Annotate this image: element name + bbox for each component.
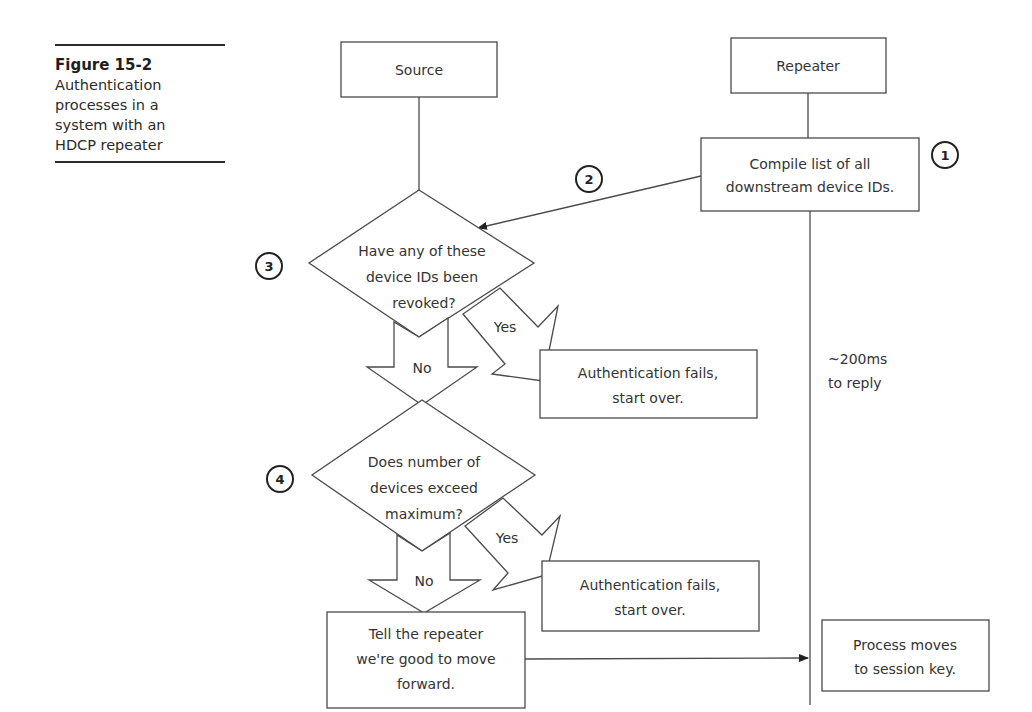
revoked-line-3: revoked? (392, 295, 455, 311)
session-key-box: Process moves to session key. (822, 620, 989, 691)
revoked-fail-line-1: Authentication fails, (578, 365, 718, 381)
proceed-arrow (525, 658, 808, 659)
tell-repeater-box: Tell the repeater we're good to move for… (327, 612, 525, 708)
timing-note: ~200ms to reply (828, 351, 887, 391)
session-line-2: to session key. (854, 661, 956, 677)
svg-text:3: 3 (264, 259, 273, 274)
revoked-fail-line-2: start over. (612, 390, 683, 406)
max-no-label: No (414, 573, 433, 589)
max-line-3: maximum? (385, 506, 463, 522)
source-label: Source (395, 62, 443, 78)
svg-text:1: 1 (940, 148, 949, 163)
max-fail-box: Authentication fails, start over. (542, 561, 759, 631)
max-line-2: devices exceed (370, 480, 478, 496)
revoked-line-1: Have any of these (358, 243, 485, 259)
revoked-no-label: No (412, 360, 431, 376)
tell-line-1: Tell the repeater (368, 626, 484, 642)
repeater-lane-header: Repeater (731, 38, 886, 93)
step-1-badge: 1 (932, 142, 958, 168)
compile-line-1: Compile list of all (749, 156, 870, 172)
svg-text:2: 2 (584, 172, 593, 187)
compile-list-box: Compile list of all downstream device ID… (701, 138, 919, 211)
repeater-label: Repeater (776, 58, 840, 74)
revoked-yes-label: Yes (493, 319, 517, 335)
timing-line-1: ~200ms (828, 351, 887, 367)
max-yes-label: Yes (495, 530, 519, 546)
timing-line-2: to reply (828, 375, 882, 391)
step-2-badge: 2 (576, 166, 602, 192)
revoked-line-2: device IDs been (366, 269, 478, 285)
max-fail-line-2: start over. (614, 602, 685, 618)
source-lane-header: Source (341, 42, 497, 97)
revoked-fail-box: Authentication fails, start over. (540, 350, 757, 418)
max-fail-line-1: Authentication fails, (580, 577, 720, 593)
flowchart: Source Repeater Compile list of all down… (0, 0, 1032, 712)
svg-text:4: 4 (275, 472, 284, 487)
session-line-1: Process moves (853, 637, 957, 653)
tell-line-2: we're good to move (356, 651, 495, 667)
compile-line-2: downstream device IDs. (726, 179, 894, 195)
step-3-badge: 3 (256, 253, 282, 279)
tell-line-3: forward. (397, 676, 455, 692)
max-line-1: Does number of (368, 454, 481, 470)
step-4-badge: 4 (267, 466, 293, 492)
